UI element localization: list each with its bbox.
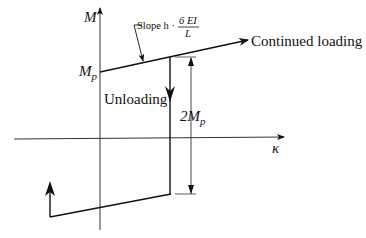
dimension-label-sub: p <box>199 115 206 127</box>
slope-denominator: L <box>184 28 191 39</box>
reverse-loading-line <box>50 194 171 217</box>
dimension-label-main: 2M <box>180 108 202 124</box>
unloading-label: Unloading <box>104 91 168 107</box>
mp-label-sub: p <box>91 70 98 82</box>
dimension-label: 2Mp <box>180 108 206 127</box>
moment-curvature-diagram: M κ Mp Continued loading Slope h · 6 EI … <box>0 0 366 238</box>
x-axis <box>14 137 284 139</box>
dimension-bottom-arrow-icon <box>188 185 194 194</box>
mp-label: Mp <box>78 63 98 82</box>
slope-numerator: 6 EI <box>179 15 197 26</box>
x-axis-label: κ <box>272 140 280 156</box>
slope-label: Slope h · <box>137 20 175 31</box>
dimension-top-arrow-icon <box>188 57 194 66</box>
loading-line <box>100 40 248 72</box>
continued-loading-label: Continued loading <box>251 33 363 49</box>
y-axis-label: M <box>83 9 98 25</box>
